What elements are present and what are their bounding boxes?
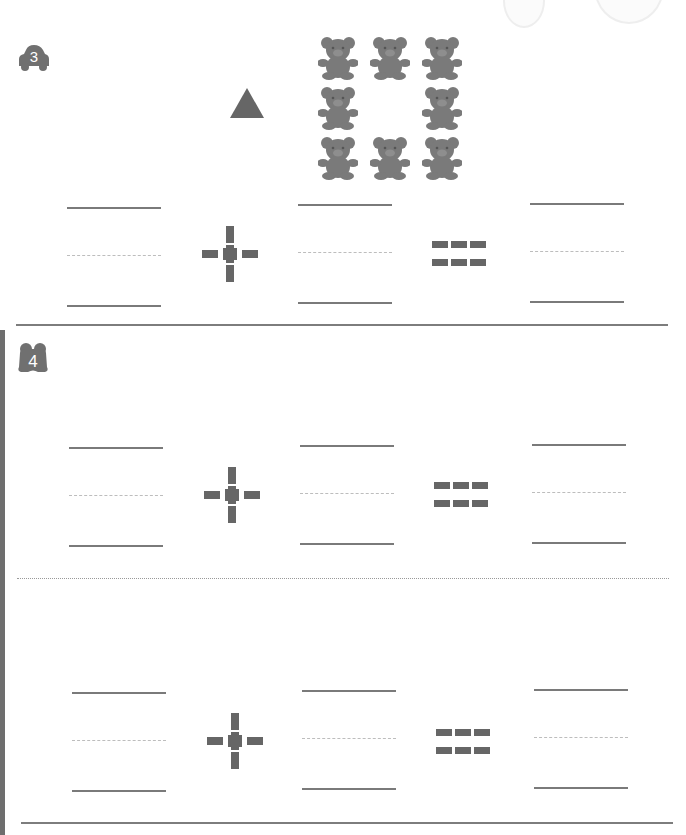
section-divider [16,324,668,326]
answer-box-result[interactable] [534,689,628,789]
answer-box-operand1[interactable] [69,447,163,547]
writing-line-top [298,204,392,206]
writing-line-top [302,690,396,692]
writing-line-guide [530,251,624,252]
answer-box-result[interactable] [532,444,626,544]
car-icon: 3 [16,42,52,72]
writing-line-bottom [532,542,626,544]
plus-sign [202,226,258,282]
bear-icon [318,86,358,130]
equals-sign [436,729,492,755]
writing-line-top [534,689,628,691]
writing-line-bottom [69,545,163,547]
section-4-badge: 4 [16,341,50,375]
bear-icon [422,86,462,130]
bear-icon [422,36,462,80]
section-3-badge: 3 [16,42,52,72]
bear-icon [370,136,410,180]
writing-line-top [72,692,166,694]
answer-box-operand2[interactable] [298,204,392,304]
svg-text:3: 3 [30,48,38,65]
writing-line-top [67,207,161,209]
bear-icon [318,36,358,80]
bear-counting-grid [318,36,468,182]
answer-box-operand1[interactable] [67,207,161,307]
bear-icon [370,36,410,80]
section-divider [21,822,673,824]
writing-line-bottom [67,305,161,307]
writing-line-top [300,445,394,447]
triangle-shape [230,88,264,118]
writing-line-guide [298,252,392,253]
page-scan-edge [0,330,5,835]
writing-line-guide [302,738,396,739]
equals-sign [434,482,490,508]
writing-line-bottom [530,301,624,303]
equals-sign [432,241,488,267]
plus-sign [207,713,263,769]
writing-line-bottom [300,543,394,545]
decorative-circle-small [503,0,545,28]
answer-box-operand2[interactable] [302,690,396,790]
answer-box-operand2[interactable] [300,445,394,545]
writing-line-top [532,444,626,446]
writing-line-guide [69,495,163,496]
frog-icon: 4 [16,341,50,375]
writing-line-guide [67,255,161,256]
bear-icon [318,136,358,180]
row-divider [17,578,669,579]
writing-line-top [530,203,624,205]
writing-line-top [69,447,163,449]
plus-sign [204,467,260,523]
bear-icon [422,136,462,180]
writing-line-guide [534,737,628,738]
writing-line-guide [300,493,394,494]
writing-line-guide [72,740,166,741]
answer-box-result[interactable] [530,203,624,303]
writing-line-guide [532,492,626,493]
answer-box-operand1[interactable] [72,692,166,792]
svg-text:4: 4 [28,352,37,371]
writing-line-bottom [534,787,628,789]
decorative-circle-large [594,0,664,24]
writing-line-bottom [72,790,166,792]
writing-line-bottom [302,788,396,790]
writing-line-bottom [298,302,392,304]
